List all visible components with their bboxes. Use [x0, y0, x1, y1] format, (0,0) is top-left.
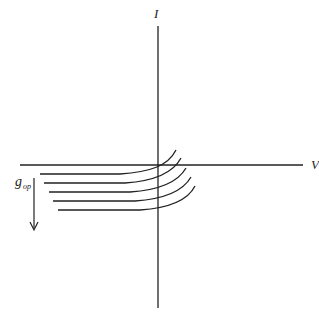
x-axis-label: V [311, 157, 319, 172]
curve-5 [58, 186, 195, 210]
curve-3 [49, 168, 186, 192]
param-subscript: op [23, 182, 31, 191]
y-axis-label: I [153, 6, 159, 21]
iv-curves [40, 150, 195, 210]
param-label: g [15, 174, 22, 189]
curve-4 [53, 177, 191, 201]
curve-2 [44, 158, 181, 183]
iv-diagram: I V g op [0, 0, 319, 317]
curve-1 [40, 150, 176, 174]
